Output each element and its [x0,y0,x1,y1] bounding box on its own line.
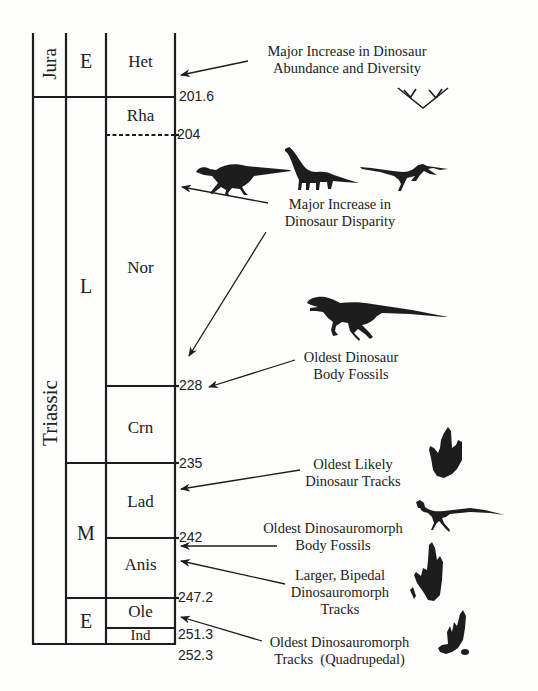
age-label-247-2: 247.2 [178,589,213,605]
age-label-204: 204 [177,126,200,142]
quadrupedal-footprint-icon [438,610,469,655]
event-label-oldest-dinosauromorph-body-fossils: Oldest Dinosauromorph Body Fossils [258,520,408,554]
theropod-silhouette-icon [307,297,448,341]
age-label-228: 228 [179,377,202,393]
epoch-label-early-triassic: E [66,610,106,633]
event-label-oldest-dinosaur-body-fossils: Oldest Dinosaur Body Fossils [296,349,406,383]
stage-label-anisian: Anis [106,555,175,575]
cladogram-icon [398,88,448,108]
period-label-jurassic: Jura [38,39,62,89]
arrow-oldest-dinosaur-body-fossils [209,360,295,387]
stage-label-rhaetian: Rha [106,106,175,126]
arrow-disparity-lower [189,232,266,356]
timeline-chart [0,0,538,691]
event-label-dinosaur-disparity: Major Increase in Dinosaur Disparity [270,196,410,230]
event-label-oldest-dinosauromorph-tracks: Oldest Dinosauromorph Tracks (Quadrupeda… [262,634,417,668]
bipedal-footprint-icon [410,542,443,601]
arrow-larger-bipedal-tracks [181,561,285,584]
small-dinosauromorph-silhouette-icon [416,500,505,532]
arrow-abundance-diversity [181,61,248,75]
stage-label-induan: Ind [106,627,175,643]
stage-label-norian: Nor [106,258,175,278]
epoch-label-early-jurassic: E [66,50,106,73]
age-label-201-6: 201.6 [179,88,214,104]
sauropodomorph-silhouette-icon [285,147,359,190]
age-label-252-3: 252.3 [178,647,213,663]
tridactyl-footprint-icon [429,427,462,478]
stage-label-ladinian: Lad [106,492,175,512]
epoch-label-middle-triassic: M [66,522,106,545]
ornithischian-silhouette-icon [196,164,291,195]
stage-label-carnian: Crn [106,418,175,438]
age-label-235: 235 [179,455,202,471]
event-label-abundance-diversity: Major Increase in Dinosaur Abundance and… [252,43,442,77]
epoch-label-late-triassic: L [66,275,106,298]
event-label-oldest-likely-dinosaur-tracks: Oldest Likely Dinosaur Tracks [300,456,406,490]
age-label-251-3: 251.3 [178,626,213,642]
stage-label-hettangian: Het [106,52,175,72]
stage-label-olenekian: Ole [106,602,175,622]
event-label-larger-bipedal-tracks: Larger, Bipedal Dinosauromorph Tracks [280,567,400,618]
small-theropod-silhouette-icon [360,164,448,191]
period-label-triassic: Triassic [37,368,63,458]
arrow-oldest-likely-dinosaur-tracks [181,470,300,489]
age-label-242: 242 [179,529,202,545]
event-arrows [181,61,300,641]
